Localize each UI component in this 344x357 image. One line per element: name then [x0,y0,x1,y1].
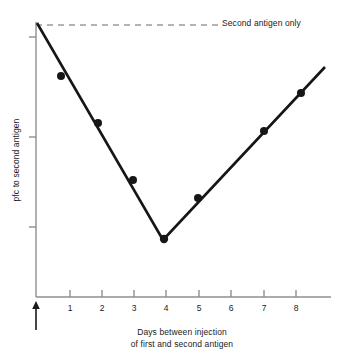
x-tick-label-6: 6 [223,303,239,313]
x-axis-caption: Days between injection of first and seco… [62,326,302,350]
data-point [57,72,65,80]
data-point [129,176,137,184]
data-point [160,235,168,243]
data-point [194,194,202,202]
data-point [94,119,102,127]
data-point [297,89,305,97]
x-tick-label-1: 1 [62,303,78,313]
x-tick-label-8: 8 [288,303,304,313]
x-tick-label-3: 3 [126,303,142,313]
x-tick-label-7: 7 [256,303,272,313]
origin-arrow-icon [32,301,40,330]
x-axis-caption-line-2: of first and second antigen [62,338,302,350]
x-axis-caption-line-1: Days between injection [62,326,302,338]
x-tick-label-2: 2 [94,303,110,313]
second-antigen-only-label: Second antigen only [222,18,301,28]
x-tick-label-4: 4 [158,303,174,313]
y-axis-title: pfc to second antigen [11,100,21,220]
chart-figure: Second antigen only pfc to second antige… [0,0,344,357]
response-fit-line [37,23,325,240]
data-point [260,127,268,135]
x-tick-label-5: 5 [191,303,207,313]
